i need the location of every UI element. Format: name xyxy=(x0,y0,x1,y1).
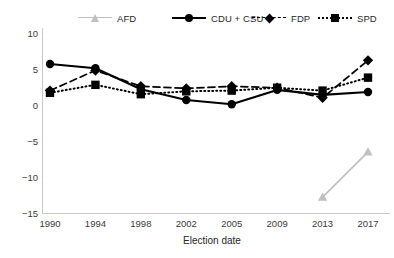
data-point-circle xyxy=(228,100,236,108)
series-fdp xyxy=(45,55,373,103)
data-point-triangle xyxy=(363,147,372,155)
data-point-square xyxy=(228,86,236,94)
data-point-square xyxy=(318,86,326,94)
x-axis-tick-label: 1990 xyxy=(39,218,60,229)
line-chart: AFDCDU + CSUFDPSPD 1050−5−10−15199019941… xyxy=(0,0,394,258)
y-axis-tick-label: −10 xyxy=(22,172,38,183)
x-axis-tick-label: 2009 xyxy=(267,218,288,229)
series-afd xyxy=(318,147,373,201)
data-point-square xyxy=(273,84,281,92)
y-axis-tick-label: 0 xyxy=(33,100,38,111)
series-spd xyxy=(46,73,372,98)
data-point-circle xyxy=(182,96,190,104)
y-axis-tick-label: −5 xyxy=(27,136,38,147)
x-axis-tick-label: 2013 xyxy=(312,218,333,229)
x-axis-tick-label: 1998 xyxy=(130,218,151,229)
series-line xyxy=(323,152,368,197)
plot-area: 1050−5−10−151990199419982002200520092013… xyxy=(0,0,394,258)
y-axis-tick-label: −15 xyxy=(22,208,38,219)
y-axis-tick-label: 5 xyxy=(33,64,38,75)
data-point-circle xyxy=(364,88,372,96)
data-point-square xyxy=(364,73,372,81)
x-axis-tick-label: 1994 xyxy=(85,218,106,229)
data-point-square xyxy=(182,87,190,95)
data-point-square xyxy=(46,89,54,97)
x-axis-title: Election date xyxy=(183,235,241,246)
data-point-square xyxy=(137,90,145,98)
x-axis-tick-label: 2005 xyxy=(221,218,242,229)
x-axis-tick-label: 2002 xyxy=(176,218,197,229)
data-point-circle xyxy=(46,60,54,68)
plot-svg: 1050−5−10−151990199419982002200520092013… xyxy=(0,0,394,258)
data-point-square xyxy=(91,81,99,89)
x-axis-tick-label: 2017 xyxy=(357,218,378,229)
y-axis-tick-label: 10 xyxy=(27,28,38,39)
